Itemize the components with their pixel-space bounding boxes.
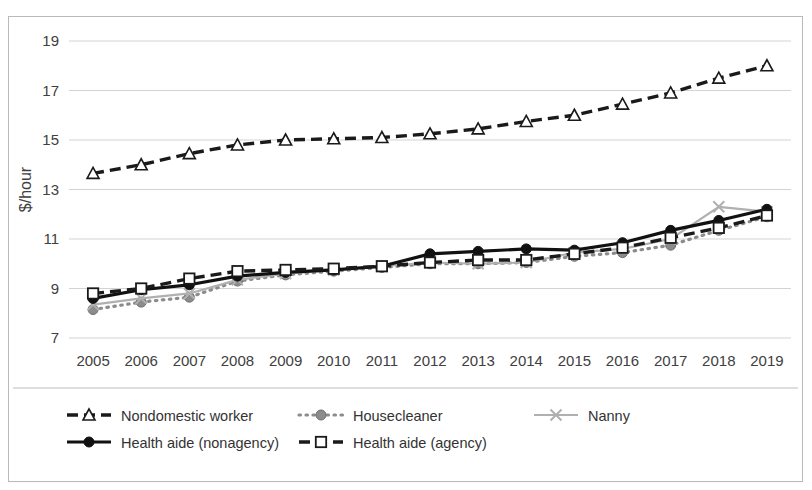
data-point-marker (521, 255, 531, 265)
legend-label: Nondomestic worker (121, 408, 253, 424)
x-axis-tick-label: 2009 (269, 352, 302, 369)
data-point-marker (473, 255, 483, 265)
data-point-marker (521, 244, 531, 254)
legend-item[interactable]: Health aide (agency) (299, 435, 487, 451)
chart-frame: 791113151719$/hour2005200620072008200920… (8, 16, 803, 482)
data-point-marker (316, 437, 326, 447)
data-point-marker (665, 233, 675, 243)
y-axis-tick-label: 7 (51, 329, 59, 346)
data-point-marker (714, 223, 724, 233)
data-point-marker (88, 305, 98, 315)
x-axis-tick-label: 2015 (558, 352, 591, 369)
legend-item[interactable]: Nanny (534, 408, 631, 424)
x-axis-tick-label: 2019 (750, 352, 783, 369)
x-axis-tick-label: 2010 (317, 352, 350, 369)
legend-label: Health aide (agency) (353, 435, 487, 451)
legend-label: Nanny (588, 408, 631, 424)
y-axis-tick-label: 17 (42, 82, 59, 99)
data-point-marker (136, 283, 146, 293)
x-axis-tick-label: 2016 (606, 352, 639, 369)
data-point-marker (617, 242, 627, 252)
x-axis-tick-label: 2018 (702, 352, 735, 369)
y-axis-title: $/hour (17, 166, 34, 212)
y-axis-tick-label: 19 (42, 32, 59, 49)
y-axis-tick-label: 9 (51, 280, 59, 297)
legend-item[interactable]: Housecleaner (299, 408, 443, 424)
legend-item[interactable]: Nondomestic worker (67, 408, 253, 424)
x-axis-tick-label: 2014 (510, 352, 543, 369)
legend-item[interactable]: Health aide (nonagency) (67, 435, 279, 451)
x-axis-tick-label: 2007 (173, 352, 206, 369)
data-point-marker (377, 261, 387, 271)
legend-label: Health aide (nonagency) (121, 435, 279, 451)
x-axis-tick-label: 2011 (366, 352, 398, 369)
data-point-marker (569, 249, 579, 259)
y-axis-tick-label: 15 (42, 131, 59, 148)
x-axis-tick-label: 2008 (221, 352, 254, 369)
y-axis-tick-label: 13 (42, 181, 59, 198)
data-point-marker (232, 266, 242, 276)
x-axis-tick-label: 2012 (413, 352, 446, 369)
data-point-marker (280, 265, 290, 275)
data-point-marker (762, 210, 772, 220)
data-point-marker (84, 437, 94, 447)
series-nondomestic-worker (87, 60, 773, 179)
legend-label: Housecleaner (353, 408, 443, 424)
title-strip (0, 0, 812, 15)
x-axis-tick-label: 2017 (654, 352, 687, 369)
x-axis-tick-label: 2013 (461, 352, 494, 369)
data-point-marker (184, 273, 194, 283)
x-axis-tick-label: 2005 (76, 352, 109, 369)
data-point-marker (88, 288, 98, 298)
y-axis-tick-label: 11 (43, 230, 59, 247)
x-axis-tick-label: 2006 (125, 352, 158, 369)
data-point-marker (316, 410, 326, 420)
data-point-marker (329, 264, 339, 274)
data-point-marker (425, 257, 435, 267)
line-chart: 791113151719$/hour2005200620072008200920… (9, 17, 802, 481)
